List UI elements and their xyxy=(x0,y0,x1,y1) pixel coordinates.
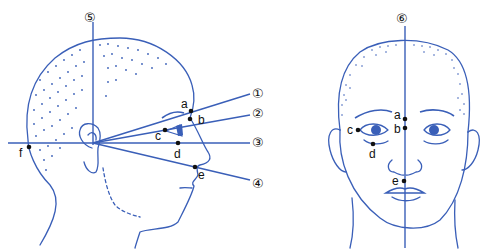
point-e-side xyxy=(193,165,198,170)
label-point-b-front: b xyxy=(394,122,401,136)
skull-outline xyxy=(27,38,194,245)
hair-stipple-side xyxy=(33,43,167,171)
point-d-front xyxy=(371,142,376,147)
face-profile xyxy=(135,118,210,248)
jaw-dashed xyxy=(103,168,140,217)
point-c-side xyxy=(163,128,168,133)
neck-left xyxy=(350,198,353,248)
label-point-d-front: d xyxy=(369,147,376,161)
label-line-6: ⑥ xyxy=(396,11,408,26)
label-line-3: ③ xyxy=(252,135,264,150)
ear-right-front xyxy=(462,130,479,170)
label-line-2: ② xyxy=(252,106,264,121)
head-landmark-diagram: ⑤ ① ② ③ ④ a b c d e f xyxy=(0,0,487,250)
eyebrow-left-front xyxy=(355,110,392,118)
label-point-c-front: c xyxy=(347,123,353,137)
label-point-f-side: f xyxy=(19,146,23,160)
iris-left-front xyxy=(371,125,381,135)
undereye-left xyxy=(364,140,388,144)
label-point-a-side: a xyxy=(181,97,188,111)
front-view-head xyxy=(329,40,480,248)
lower-lip xyxy=(392,197,420,201)
point-b-side xyxy=(188,117,193,122)
point-d-side xyxy=(176,141,181,146)
label-point-e-front: e xyxy=(392,174,399,188)
side-line-labels: ⑤ ① ② ③ ④ xyxy=(84,10,264,191)
label-line-1: ① xyxy=(252,86,264,101)
label-point-b-side: b xyxy=(198,113,205,127)
neck-right xyxy=(455,200,458,248)
iris-right-front xyxy=(429,125,439,135)
label-point-e-side: e xyxy=(198,168,205,182)
ear xyxy=(80,124,101,173)
nose-left xyxy=(388,160,404,175)
eyebrow-right-front xyxy=(420,110,454,116)
point-c-front xyxy=(356,128,361,133)
label-point-c-side: c xyxy=(155,129,161,143)
point-a-front xyxy=(403,117,408,122)
point-e-front xyxy=(402,179,407,184)
label-point-d-side: d xyxy=(174,147,181,161)
front-view-points: a b c d e xyxy=(347,108,407,188)
ear-inner xyxy=(88,133,96,140)
label-line-4: ④ xyxy=(252,176,264,191)
line-4 xyxy=(93,143,250,180)
side-view-lines xyxy=(8,22,250,180)
label-point-a-front: a xyxy=(394,108,401,122)
point-a-side xyxy=(189,109,194,114)
nose-right xyxy=(406,160,422,175)
point-b-front xyxy=(403,126,408,131)
undereye-right xyxy=(424,140,448,144)
hair-stipple-front xyxy=(341,44,465,116)
point-f-side xyxy=(27,145,32,150)
label-line-5: ⑤ xyxy=(84,10,96,25)
